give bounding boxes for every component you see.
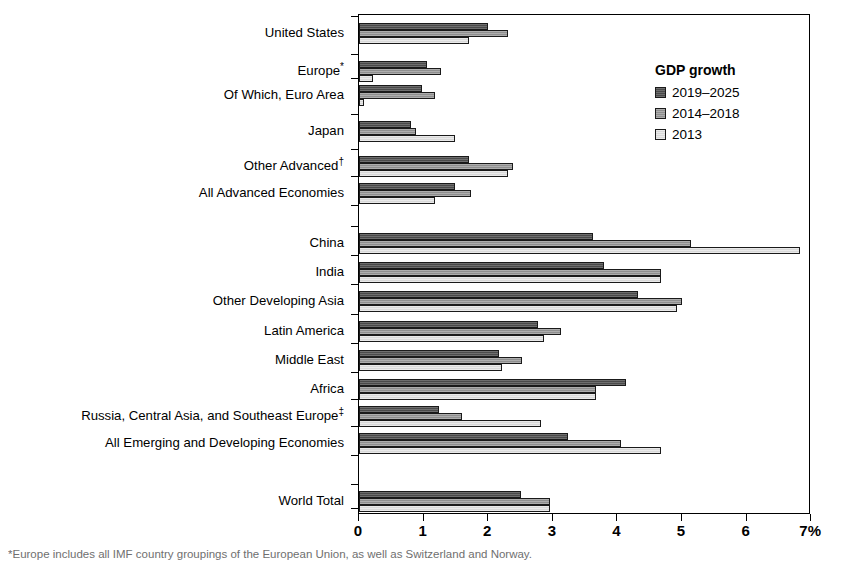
x-axis-label-0: 0 <box>354 522 362 539</box>
x-axis-label-1: 1 <box>418 522 426 539</box>
y-axis-tick <box>351 343 358 344</box>
bar-all-emerging-and-developing-economies-2014-2018 <box>359 440 621 447</box>
bar-latin-america-2013 <box>359 335 544 342</box>
bar-of-which-euro-area-2013 <box>359 99 364 106</box>
bar-all-advanced-economies-2014-2018 <box>359 190 471 197</box>
y-axis-tick <box>351 508 358 509</box>
bar-africa-2013 <box>359 393 596 400</box>
y-axis-tick <box>351 226 358 227</box>
legend-item-2013: 2013 <box>655 127 740 142</box>
bar-russia-central-asia-and-southeast-europe--2013 <box>359 420 541 427</box>
bar-united-states-2014-2018 <box>359 30 508 37</box>
bar-middle-east-2013 <box>359 364 502 371</box>
category-label-japan: Japan <box>308 124 344 138</box>
bar-russia-central-asia-and-southeast-europe--2019-2025 <box>359 406 439 413</box>
category-label-other-advanced-: Other Advanced† <box>244 159 344 173</box>
category-label-of-which-euro-area: Of Which, Euro Area <box>224 88 344 102</box>
category-label-other-developing-asia: Other Developing Asia <box>213 294 344 308</box>
bar-other-developing-asia-2013 <box>359 305 677 312</box>
y-axis-tick <box>351 484 358 485</box>
category-label-africa: Africa <box>310 382 344 396</box>
x-axis-tick-3 <box>552 514 553 521</box>
y-axis-tick <box>351 455 358 456</box>
category-label-middle-east: Middle East <box>275 353 344 367</box>
bar-other-advanced--2019-2025 <box>359 156 469 163</box>
bar-europe--2019-2025 <box>359 61 427 68</box>
legend-item-2019-2025: 2019–2025 <box>655 85 740 100</box>
bar-china-2019-2025 <box>359 233 593 240</box>
x-axis-label-3: 3 <box>548 522 556 539</box>
category-label-europe-: Europe* <box>298 64 344 78</box>
bar-world-total-2019-2025 <box>359 491 521 498</box>
gdp-growth-bar-chart: United StatesEurope*Of Which, Euro AreaJ… <box>0 0 842 565</box>
bar-other-advanced--2013 <box>359 170 508 177</box>
x-axis-tick-0 <box>358 514 359 521</box>
chart-legend: GDP growth 2019–2025 2014–2018 2013 <box>655 62 740 148</box>
category-label-all-advanced-economies: All Advanced Economies <box>199 186 344 200</box>
x-axis-label-7: 7% <box>799 522 821 539</box>
y-axis-tick <box>351 114 358 115</box>
bar-africa-2019-2025 <box>359 379 626 386</box>
category-label-latin-america: Latin America <box>264 324 344 338</box>
bar-india-2013 <box>359 276 661 283</box>
bar-united-states-2013 <box>359 37 469 44</box>
x-axis-label-5: 5 <box>677 522 685 539</box>
y-axis-tick <box>351 372 358 373</box>
category-label-all-emerging-and-developing-economies: All Emerging and Developing Economies <box>105 436 344 450</box>
bar-all-emerging-and-developing-economies-2019-2025 <box>359 433 568 440</box>
bar-world-total-2014-2018 <box>359 498 550 505</box>
legend-swatch-dark-icon <box>655 87 666 98</box>
x-axis-tick-1 <box>423 514 424 521</box>
category-label-united-states: United States <box>265 26 344 40</box>
bar-other-developing-asia-2019-2025 <box>359 291 638 298</box>
bar-of-which-euro-area-2014-2018 <box>359 92 435 99</box>
bar-india-2014-2018 <box>359 269 661 276</box>
legend-swatch-medium-icon <box>655 108 666 119</box>
legend-label-2013: 2013 <box>672 127 702 142</box>
x-axis-label-2: 2 <box>483 522 491 539</box>
y-axis-tick <box>351 16 358 17</box>
category-label-world-total: World Total <box>279 494 344 508</box>
bar-all-emerging-and-developing-economies-2013 <box>359 447 661 454</box>
bar-latin-america-2014-2018 <box>359 328 561 335</box>
y-axis-tick <box>351 176 358 177</box>
bar-of-which-euro-area-2019-2025 <box>359 85 422 92</box>
category-labels: United StatesEurope*Of Which, Euro AreaJ… <box>0 14 352 514</box>
bar-all-advanced-economies-2019-2025 <box>359 183 455 190</box>
bar-europe--2013 <box>359 75 373 82</box>
legend-swatch-light-icon <box>655 129 666 140</box>
bar-india-2019-2025 <box>359 262 604 269</box>
bar-china-2013 <box>359 247 800 254</box>
y-axis-tick <box>351 399 358 400</box>
legend-item-2014-2018: 2014–2018 <box>655 106 740 121</box>
category-label-china: China <box>310 236 344 250</box>
y-axis-tick <box>351 284 358 285</box>
y-axis-tick <box>351 78 358 79</box>
bar-japan-2019-2025 <box>359 121 411 128</box>
y-axis-tick <box>351 426 358 427</box>
legend-label-2014-2018: 2014–2018 <box>672 106 740 121</box>
bar-japan-2014-2018 <box>359 128 416 135</box>
bar-china-2014-2018 <box>359 240 691 247</box>
bar-other-developing-asia-2014-2018 <box>359 298 682 305</box>
plot-area <box>358 14 810 514</box>
category-label-india: India <box>315 265 344 279</box>
x-axis-tick-6 <box>746 514 747 521</box>
bar-europe--2014-2018 <box>359 68 441 75</box>
y-axis-tick <box>351 54 358 55</box>
y-axis-tick <box>351 205 358 206</box>
bar-africa-2014-2018 <box>359 386 596 393</box>
legend-label-2019-2025: 2019–2025 <box>672 85 740 100</box>
legend-title: GDP growth <box>655 62 740 78</box>
bar-united-states-2019-2025 <box>359 23 488 30</box>
x-axis-label-4: 4 <box>612 522 620 539</box>
bar-world-total-2013 <box>359 505 550 512</box>
bar-latin-america-2019-2025 <box>359 321 538 328</box>
x-axis-tick-4 <box>616 514 617 521</box>
x-axis-tick-7 <box>810 514 811 521</box>
category-label-russia-central-asia-and-southeast-europe-: Russia, Central Asia, and Southeast Euro… <box>81 409 344 423</box>
y-axis-tick <box>351 255 358 256</box>
bar-russia-central-asia-and-southeast-europe--2014-2018 <box>359 413 462 420</box>
chart-footnote: *Europe includes all IMF country groupin… <box>8 548 834 565</box>
x-axis-label-6: 6 <box>741 522 749 539</box>
